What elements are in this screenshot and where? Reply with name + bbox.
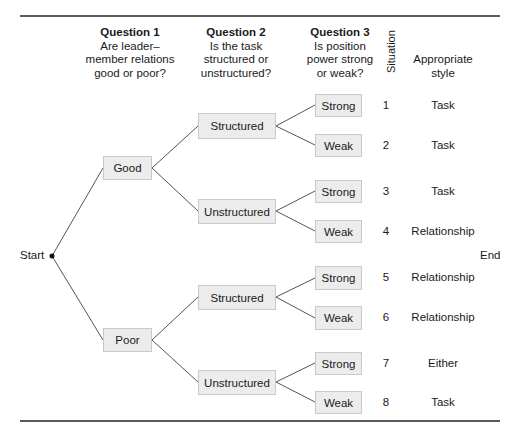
start-label: Start — [20, 249, 44, 261]
appropriate-style: Task — [398, 185, 488, 197]
node-weak-8: Weak — [315, 391, 362, 414]
node-strong-5: Strong — [315, 266, 362, 290]
node-weak-2: Weak — [315, 134, 362, 157]
node-poor-unstructured: Unstructured — [198, 370, 276, 395]
node-strong-3: Strong — [315, 180, 362, 203]
node-good-unstructured: Unstructured — [198, 199, 276, 224]
situation-number: 4 — [379, 225, 393, 237]
appropriate-style: Task — [398, 99, 488, 111]
node-weak-4: Weak — [315, 220, 362, 243]
situation-number: 5 — [379, 271, 393, 283]
situation-number: 6 — [379, 311, 393, 323]
appropriate-style: Relationship — [398, 225, 488, 237]
node-good-structured: Structured — [198, 113, 276, 139]
appropriate-style: Relationship — [398, 311, 488, 323]
start-node-dot — [50, 254, 55, 259]
node-good: Good — [103, 156, 152, 180]
situation-number: 7 — [379, 357, 393, 369]
appropriate-style: Either — [398, 357, 488, 369]
situation-number: 8 — [379, 396, 393, 408]
node-poor-structured: Structured — [198, 285, 276, 310]
node-poor: Poor — [103, 328, 152, 352]
appropriate-style: Task — [398, 139, 488, 151]
node-strong-1: Strong — [315, 94, 362, 117]
appropriate-style: Relationship — [398, 271, 488, 283]
node-strong-7: Strong — [315, 352, 362, 375]
situation-number: 1 — [379, 99, 393, 111]
end-label: End — [480, 249, 500, 261]
appropriate-style: Task — [398, 396, 488, 408]
situation-number: 2 — [379, 139, 393, 151]
node-weak-6: Weak — [315, 306, 362, 330]
situation-number: 3 — [379, 185, 393, 197]
